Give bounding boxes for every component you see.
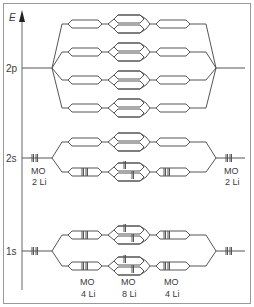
- mo-label-bottom-1-line1: MO: [80, 277, 95, 287]
- mo-label-2s-left-1: MO: [31, 166, 46, 176]
- axis-arrow-icon: [19, 10, 25, 22]
- level-label-1s: 1s: [6, 246, 17, 257]
- mo-label-2s-right-2: 2 Li: [225, 177, 240, 187]
- orbital-lines: [22, 15, 245, 275]
- mo-label-bottom-2-line1: MO: [121, 277, 136, 287]
- mo-label-2s-left-2: 2 Li: [32, 177, 47, 187]
- mo-label-bottom-2-line2: 8 Li: [122, 289, 137, 299]
- mo-label-bottom-1-line2: 4 Li: [81, 289, 96, 299]
- mo-label-2s-right-1: MO: [224, 166, 239, 176]
- level-label-2s: 2s: [6, 153, 17, 164]
- mo-label-bottom-3-line1: MO: [164, 277, 179, 287]
- axis-label: E: [9, 12, 16, 23]
- level-label-2p: 2p: [6, 63, 18, 74]
- mo-energy-diagram: E 2p 2s 1s MO 2 Li MO 2 Li MO 4 Li MO 8 …: [0, 0, 254, 307]
- mo-label-bottom-3-line2: 4 Li: [165, 289, 180, 299]
